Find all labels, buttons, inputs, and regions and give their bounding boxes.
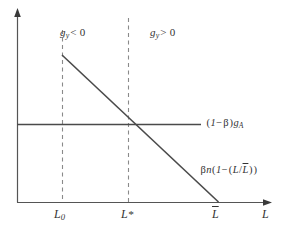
L-symbol: L bbox=[121, 207, 128, 221]
asterisk-superscript: * bbox=[128, 208, 135, 220]
g-subscript-A: A bbox=[239, 121, 244, 130]
region-label-left: gy< 0 bbox=[60, 27, 86, 40]
minus-operator: − bbox=[216, 117, 223, 128]
phase-diagram-figure: gy< 0 gy> 0 (1−β)gA βn(1−(L/L)) L0 L* L … bbox=[0, 0, 289, 241]
diagram-canvas bbox=[0, 0, 289, 241]
region-right-relation: > 0 bbox=[160, 26, 176, 38]
x-axis bbox=[17, 199, 272, 205]
x-axis-arrowhead bbox=[263, 199, 272, 205]
n-symbol: n bbox=[206, 164, 211, 175]
paren-close: ) bbox=[253, 164, 258, 175]
L-symbol: L bbox=[233, 164, 239, 175]
L-symbol: L bbox=[54, 207, 61, 221]
sloped-curve-label: βn(1−(L/L)) bbox=[200, 165, 257, 176]
horizontal-curve-label: (1−β)gA bbox=[206, 118, 243, 130]
x-axis-label: L bbox=[262, 208, 269, 220]
region-label-right: gy> 0 bbox=[150, 27, 176, 40]
y-axis-arrowhead bbox=[14, 8, 21, 17]
axis-tick-label-Lbar: L bbox=[212, 208, 219, 220]
one-literal: 1 bbox=[211, 117, 216, 128]
subscript-zero: 0 bbox=[61, 212, 65, 222]
region-left-relation: < 0 bbox=[70, 26, 86, 38]
sloped-curve-line bbox=[62, 55, 219, 202]
axis-tick-label-L0: L0 bbox=[54, 208, 65, 222]
axis-tick-label-Lstar: L* bbox=[121, 208, 134, 220]
Lbar-symbol: L bbox=[212, 207, 219, 221]
y-axis bbox=[14, 8, 21, 203]
